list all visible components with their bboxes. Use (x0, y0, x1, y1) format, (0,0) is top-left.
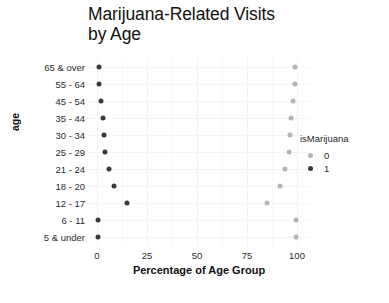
grid-line-horizontal (89, 186, 309, 187)
legend-label: 1 (324, 163, 329, 175)
legend: isMarijuana 01 (300, 133, 386, 175)
y-tick-label: 35 - 44 (55, 112, 85, 123)
data-point (293, 218, 298, 223)
data-point (103, 150, 108, 155)
y-tick-label: 65 & over (44, 61, 85, 72)
data-point (124, 201, 129, 206)
legend-item[interactable]: 0 (304, 149, 386, 162)
chart-title-line-1: Marijuana-Related Visits (88, 4, 328, 24)
data-point (288, 132, 293, 137)
x-tick-label: 75 (242, 250, 253, 262)
data-point (98, 98, 103, 103)
y-axis-title: age (9, 113, 21, 131)
data-point (277, 184, 282, 189)
grid-line-horizontal (89, 135, 309, 136)
y-tick-label: 6 - 11 (61, 215, 85, 226)
chart-title-line-2: by Age (88, 24, 328, 44)
data-point (96, 235, 101, 240)
data-point (286, 150, 291, 155)
data-point (293, 64, 298, 69)
plot-panel (89, 58, 309, 246)
legend-key (304, 166, 317, 171)
data-point (101, 115, 106, 120)
grid-line-horizontal (89, 101, 309, 102)
grid-line-horizontal (89, 203, 309, 204)
x-axis-tick-labels: 0255075100 (89, 250, 309, 264)
x-tick-label: 25 (142, 250, 153, 262)
grid-line-horizontal (89, 84, 309, 85)
legend-swatch-icon (308, 153, 313, 158)
grid-line-horizontal (89, 67, 309, 68)
legend-title: isMarijuana (300, 133, 386, 145)
legend-label: 0 (324, 150, 329, 162)
data-point (112, 184, 117, 189)
grid-line-horizontal (89, 220, 309, 221)
data-point (101, 132, 106, 137)
chart-title: Marijuana-Related Visits by Age (88, 4, 328, 44)
x-tick-label: 100 (289, 250, 305, 262)
legend-entries: 01 (300, 149, 386, 175)
x-tick-label: 50 (192, 250, 203, 262)
grid-line-horizontal (89, 152, 309, 153)
grid-line-horizontal (89, 118, 309, 119)
legend-key (304, 153, 317, 158)
y-tick-label: 12 - 17 (55, 198, 85, 209)
data-point (96, 64, 101, 69)
y-tick-label: 45 - 54 (55, 95, 85, 106)
y-tick-label: 21 - 24 (55, 164, 85, 175)
data-point (107, 167, 112, 172)
data-point (294, 235, 299, 240)
data-point (291, 98, 296, 103)
data-point (265, 201, 270, 206)
data-point (97, 81, 102, 86)
chart-container: Marijuana-Related Visits by Age age 65 &… (0, 0, 389, 303)
legend-item[interactable]: 1 (304, 162, 386, 175)
y-tick-label: 55 - 64 (55, 78, 85, 89)
data-point (96, 218, 101, 223)
y-tick-label: 5 & under (44, 232, 85, 243)
y-tick-label: 25 - 29 (55, 147, 85, 158)
legend-swatch-icon (308, 166, 313, 171)
grid-line-horizontal (89, 237, 309, 238)
data-point (282, 167, 287, 172)
y-tick-label: 18 - 20 (55, 181, 85, 192)
grid-line-horizontal (89, 169, 309, 170)
x-axis-title: Percentage of Age Group (89, 264, 309, 276)
y-axis-tick-labels: 65 & over55 - 6445 - 5435 - 4430 - 3425 … (22, 58, 85, 246)
data-point (288, 115, 293, 120)
x-tick-label: 0 (94, 250, 99, 262)
data-point (292, 81, 297, 86)
y-tick-label: 30 - 34 (55, 129, 85, 140)
